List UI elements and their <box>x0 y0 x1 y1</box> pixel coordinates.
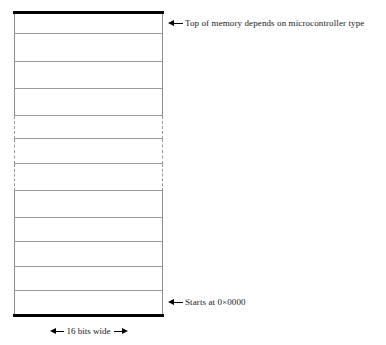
memory-cell <box>14 242 163 267</box>
memory-cell <box>14 191 163 218</box>
memory-map-diagram <box>14 11 163 317</box>
memory-cell-elided <box>14 164 163 191</box>
memory-cell <box>14 89 163 116</box>
memory-cell <box>14 62 163 89</box>
memory-cell <box>14 218 163 242</box>
memory-cell <box>14 291 163 314</box>
memory-bottom-boundary-bar <box>13 314 164 317</box>
memory-cell <box>14 14 163 34</box>
memory-cell-elided <box>14 116 163 139</box>
width-dimension-annotation: 16 bits wide <box>14 324 163 338</box>
memory-cell <box>14 34 163 62</box>
start-address-annotation-label: Starts at 0×0000 <box>185 297 246 308</box>
arrow-head-right-icon <box>114 327 128 336</box>
arrow-left-icon <box>168 19 183 28</box>
memory-cell-elided <box>14 139 163 164</box>
start-address-annotation: Starts at 0×0000 <box>168 297 246 308</box>
memory-cell-stack <box>14 14 163 314</box>
width-dimension-label: 16 bits wide <box>64 325 114 337</box>
memory-cell <box>14 267 163 291</box>
arrow-head-left-icon <box>50 327 64 336</box>
arrow-left-icon <box>168 298 183 307</box>
top-of-memory-annotation-label: Top of memory depends on microcontroller… <box>185 18 364 29</box>
top-of-memory-annotation: Top of memory depends on microcontroller… <box>168 18 364 29</box>
